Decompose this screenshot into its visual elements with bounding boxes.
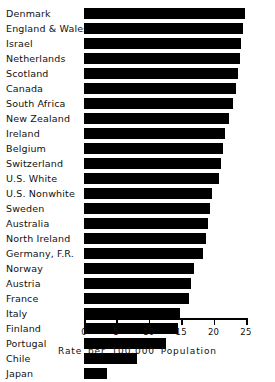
bar-category-label: South Africa [6,97,80,112]
bar-track [84,203,270,214]
bar-track [84,263,270,274]
bar-fill [84,203,210,214]
bar-row: New Zealand [0,112,275,127]
bar-track [84,188,270,199]
x-axis-tick-label: 0 [69,327,99,337]
x-axis-tick-label: 5 [101,327,131,337]
bar-category-label: Australia [6,217,80,232]
bar-category-label: Netherlands [6,52,80,67]
bar-track [84,248,270,259]
bar-fill [84,173,219,184]
bar-category-label: England & Wales [6,22,80,37]
bar-row: U.S. Nonwhite [0,187,275,202]
bar-fill [84,293,189,304]
bar-fill [84,158,221,169]
bar-row: Norway [0,262,275,277]
bar-category-label: New Zealand [6,112,80,127]
bar-category-label: Denmark [6,7,80,22]
x-axis-tick-label: 15 [166,327,196,337]
bar-fill [84,53,240,64]
bar-row: Sweden [0,202,275,217]
bar-category-label: North Ireland [6,232,80,247]
bar-fill [84,113,229,124]
bar-row: Germany, F.R. [0,247,275,262]
bar-category-label: Switzerland [6,157,80,172]
bar-row: Ireland [0,127,275,142]
bar-row: U.S. White [0,172,275,187]
x-axis-line [84,318,246,320]
bar-category-label: Austria [6,277,80,292]
bar-fill [84,248,203,259]
x-axis-tick-label: 25 [231,327,261,337]
bar-row: North Ireland [0,232,275,247]
bar-category-label: Israel [6,37,80,52]
bar-track [84,113,270,124]
x-axis-title: Rate per 100,000 Population [0,346,275,356]
bar-track [84,218,270,229]
bar-row: Canada [0,82,275,97]
bar-track [84,8,270,19]
bar-track [84,278,270,289]
bar-fill [84,38,241,49]
bar-category-label: Germany, F.R. [6,247,80,262]
bar-row: Australia [0,217,275,232]
bar-category-label: Canada [6,82,80,97]
bar-row: France [0,292,275,307]
bar-category-label: Sweden [6,202,80,217]
x-axis-tick [116,318,118,325]
bar-row: Belgium [0,142,275,157]
x-axis-tick [214,318,216,325]
bar-fill [84,188,212,199]
bar-category-label: France [6,292,80,307]
bar-fill [84,8,245,19]
bar-row: Netherlands [0,52,275,67]
bar-track [84,143,270,154]
bar-category-label: Scotland [6,67,80,82]
bar-category-label: Ireland [6,127,80,142]
x-axis-tick [181,318,183,325]
bar-fill [84,218,208,229]
bar-category-label: U.S. White [6,172,80,187]
bar-fill [84,23,243,34]
bar-row: Denmark [0,7,275,22]
bar-category-label: Norway [6,262,80,277]
x-axis-tick [246,318,248,325]
bar-track [84,38,270,49]
bar-fill [84,263,194,274]
bar-track [84,293,270,304]
bar-row: Switzerland [0,157,275,172]
bar-fill [84,128,225,139]
bar-row: England & Wales [0,22,275,37]
x-axis: Rate per 100,000 Population 0510152025 [0,318,275,374]
bar-category-label: Belgium [6,142,80,157]
bar-track [84,233,270,244]
x-axis-tick-label: 10 [134,327,164,337]
bar-row: Austria [0,277,275,292]
bar-fill [84,233,206,244]
bar-fill [84,143,223,154]
bar-row: Scotland [0,67,275,82]
bar-track [84,68,270,79]
bar-fill [84,98,233,109]
bar-fill [84,278,191,289]
bar-fill [84,83,236,94]
bar-row: Israel [0,37,275,52]
bar-track [84,173,270,184]
bar-fill [84,68,238,79]
x-axis-tick [84,318,86,325]
bar-track [84,128,270,139]
bar-track [84,23,270,34]
bar-track [84,53,270,64]
x-axis-tick [149,318,151,325]
x-axis-tick-label: 20 [199,327,229,337]
bar-track [84,83,270,94]
bar-row: South Africa [0,97,275,112]
bar-track [84,158,270,169]
bar-track [84,98,270,109]
bar-category-label: U.S. Nonwhite [6,187,80,202]
chart-plot-area: DenmarkEngland & WalesIsraelNetherlandsS… [0,7,275,319]
